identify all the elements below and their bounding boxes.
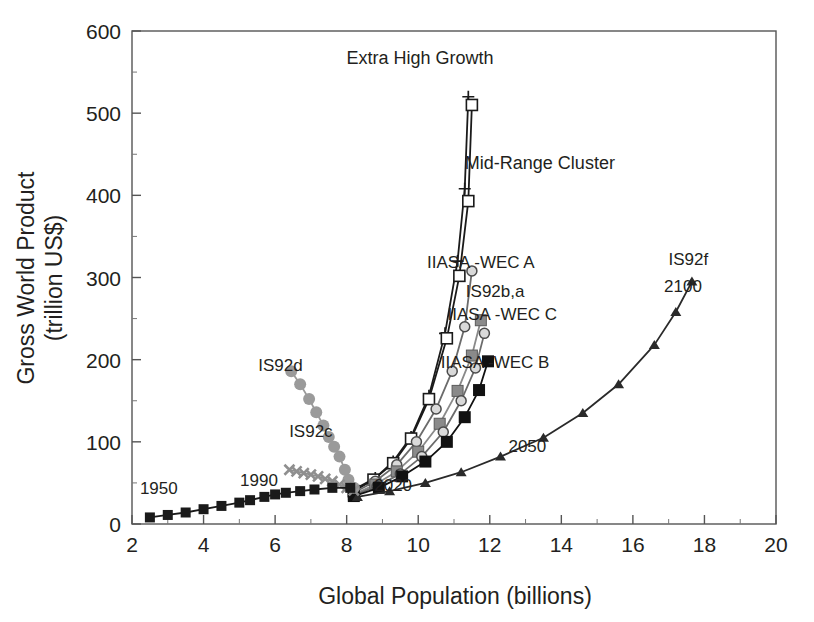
chart-annotation: Mid-Range Cluster [465,153,615,173]
data-marker [495,452,506,461]
chart-canvas: 01002003004005006002468101214161820 Extr… [0,0,814,622]
data-marker [309,484,319,494]
data-marker [334,451,346,463]
chart-annotation: IIASA -WEC C [448,305,558,324]
chart-figure: 01002003004005006002468101214161820 Extr… [0,0,814,622]
x-tick-label: 6 [269,533,281,556]
chart-annotation: 1990 [240,471,278,490]
series-4 [348,315,486,500]
chart-annotation: 2100 [664,277,702,296]
data-marker [303,393,315,405]
data-marker [423,394,434,405]
data-marker [295,486,305,496]
data-marker [411,437,421,447]
data-marker [466,99,477,110]
data-marker [270,489,280,499]
chart-annotation: Extra High Growth [346,48,493,68]
y-axis-title-line1: Gross World Product [13,171,39,385]
data-marker [145,512,155,522]
series-line [354,97,468,490]
data-marker [294,378,306,390]
series-2 [348,99,477,496]
data-marker [459,411,471,423]
data-marker [181,507,191,517]
x-tick-label: 18 [693,533,716,556]
x-tick-label: 16 [621,533,644,556]
data-marker [431,404,441,414]
data-marker [281,488,291,498]
x-tick-label: 4 [198,533,210,556]
chart-annotation: 2020 [374,476,412,495]
chart-annotation: IS92d [258,356,302,375]
data-marker [259,492,269,502]
data-marker [441,333,452,344]
data-marker [199,504,209,514]
y-tick-label: 0 [109,513,121,536]
data-marker [163,510,173,520]
x-tick-label: 14 [550,533,574,556]
y-tick-label: 400 [86,184,121,207]
chart-annotation: 2050 [508,437,546,456]
data-marker [463,196,474,207]
data-marker [327,483,337,493]
data-marker [456,467,467,476]
chart-annotation: IS92b,a [466,282,525,301]
chart-annotation: IS92f [668,250,708,269]
x-tick-label: 12 [478,533,501,556]
data-marker [310,406,322,418]
y-tick-label: 200 [86,349,121,372]
data-marker [245,495,255,505]
data-marker [670,307,681,316]
data-marker [479,328,489,338]
data-marker [438,427,448,437]
y-tick-label: 100 [86,431,121,454]
data-marker [452,385,463,396]
data-marker [216,501,226,511]
data-marker [234,498,244,508]
x-tick-label: 10 [407,533,430,556]
data-marker [454,270,465,281]
x-tick-label: 8 [341,533,353,556]
data-marker [441,436,453,448]
x-tick-label: 2 [126,533,138,556]
x-axis-title: Global Population (billions) [318,583,592,609]
data-marker [649,340,660,349]
data-marker [456,396,466,406]
data-marker [345,483,355,493]
chart-annotation: 1950 [140,479,178,498]
y-tick-label: 300 [86,267,121,290]
chart-annotation: IIASA -WEC B [441,353,550,372]
data-marker [473,384,485,396]
x-tick-label: 20 [764,533,787,556]
data-marker [419,456,431,468]
y-axis-title-line2: (trillion US$) [41,215,67,342]
y-tick-label: 500 [86,102,121,125]
chart-annotation: IS92c [289,422,333,441]
y-tick-label: 600 [86,20,121,43]
chart-annotation: IIASA -WEC A [427,253,535,272]
annotation-layer: Extra High GrowthMid-Range ClusterIIASA … [140,48,709,499]
